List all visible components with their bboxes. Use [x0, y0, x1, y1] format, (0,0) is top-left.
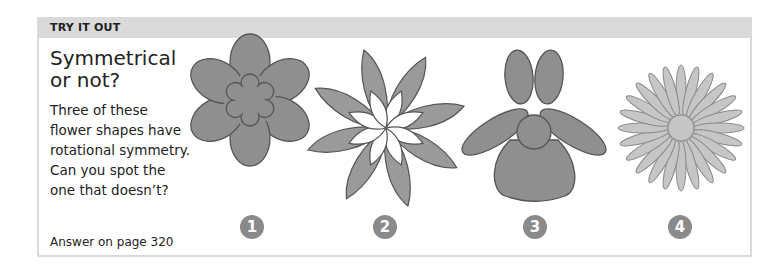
flower-number-badge: 4 — [668, 215, 692, 239]
flower-number-badge: 3 — [523, 215, 547, 239]
flower-number-badge: 2 — [373, 215, 397, 239]
asymmetric-flower-icon — [456, 49, 612, 201]
star-flower-icon — [308, 50, 464, 206]
six-petal-flower-icon — [183, 34, 317, 166]
daisy-flower-icon — [618, 65, 744, 191]
flower-number-badge: 1 — [240, 215, 264, 239]
